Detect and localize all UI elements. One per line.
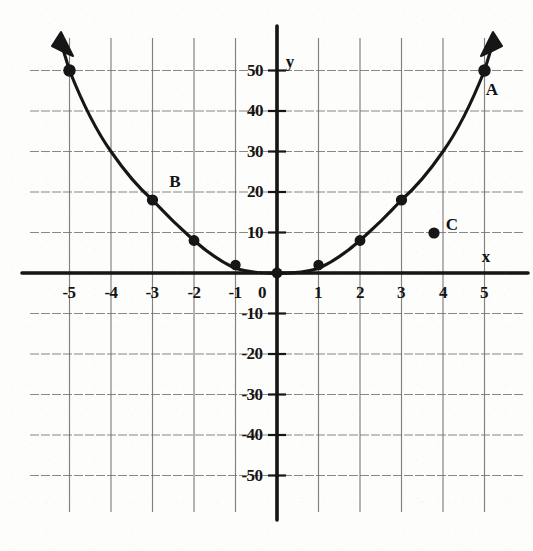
x-tick-label-2: 2 (356, 283, 364, 303)
data-point (63, 64, 75, 76)
y-tick-label--50: -50 (241, 466, 262, 486)
x-tick-label--3: -3 (145, 283, 158, 303)
x-tick-label-1: 1 (314, 283, 322, 303)
y-tick-label--40: -40 (241, 425, 262, 445)
data-point (272, 268, 283, 279)
data-point (230, 260, 240, 270)
x-tick-label-5: 5 (480, 283, 488, 303)
y-tick-label-40: 40 (247, 101, 263, 121)
data-point (147, 194, 158, 205)
y-tick-label--30: -30 (241, 385, 262, 405)
point-label-b: B (169, 172, 180, 192)
x-tick-label--5: -5 (62, 283, 75, 303)
x-tick-label--4: -4 (104, 283, 117, 303)
data-point (189, 235, 200, 246)
point-label-a: A (486, 80, 498, 100)
data-point (478, 64, 490, 76)
data-point (355, 235, 366, 246)
coordinate-plane (0, 0, 533, 551)
y-tick-label-20: 20 (247, 182, 263, 202)
x-tick-label-3: 3 (397, 283, 405, 303)
point-label-c: C (446, 215, 458, 235)
x-axis-label: x (482, 247, 491, 267)
x-tick-label-0: 0 (258, 283, 266, 303)
graph-figure: -5 -4 -3 -2 -1 0 1 2 3 4 5 50 40 30 20 1… (0, 0, 533, 551)
y-tick-label-30: 30 (247, 142, 263, 162)
x-tick-label--2: -2 (187, 283, 200, 303)
x-tick-label--1: -1 (228, 283, 241, 303)
data-point (313, 260, 323, 270)
y-tick-label-10: 10 (247, 223, 263, 243)
y-tick-label--20: -20 (241, 344, 262, 364)
y-tick-label--10: -10 (241, 304, 262, 324)
data-point-c (428, 227, 439, 238)
data-point (396, 194, 407, 205)
x-tick-label-4: 4 (439, 283, 447, 303)
y-tick-label-50: 50 (247, 61, 263, 81)
y-axis-label: y (286, 52, 295, 72)
